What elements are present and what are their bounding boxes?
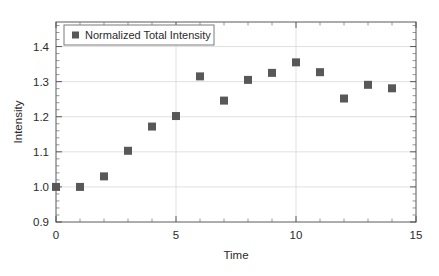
data-point-marker: [340, 94, 348, 102]
data-point-marker: [148, 123, 156, 131]
chart-legend: Normalized Total Intensity: [64, 25, 214, 45]
y-tick-label: 1.2: [33, 111, 49, 123]
x-tick-labels: 051015: [53, 229, 423, 241]
y-tick-label: 1.0: [33, 181, 49, 193]
y-tick-label: 1.1: [33, 146, 49, 158]
legend-square-marker-icon: [72, 32, 79, 39]
data-point-marker: [220, 97, 228, 105]
x-axis-title: Time: [223, 249, 248, 261]
y-tick-labels: 0.91.01.11.21.31.4: [33, 41, 50, 228]
scatter-chart: 0.91.01.11.21.31.4 051015 Time Intensity…: [0, 0, 439, 276]
data-point-marker: [100, 172, 108, 180]
legend-label: Normalized Total Intensity: [85, 29, 211, 41]
y-tick-label: 1.3: [33, 76, 49, 88]
y-tick-label: 0.9: [33, 216, 49, 228]
data-point-marker: [76, 183, 84, 191]
data-point-marker: [172, 112, 180, 120]
y-tick-label: 1.4: [33, 41, 50, 53]
x-tick-label: 10: [290, 229, 303, 241]
x-tick-label: 5: [173, 229, 179, 241]
data-point-marker: [52, 183, 60, 191]
chart-canvas: 0.91.01.11.21.31.4 051015 Time Intensity…: [0, 0, 439, 276]
data-point-marker: [364, 81, 372, 89]
x-tick-label: 0: [53, 229, 59, 241]
plot-background: [56, 22, 416, 222]
data-point-marker: [316, 68, 324, 76]
data-point-marker: [196, 72, 204, 80]
data-point-marker: [244, 76, 252, 84]
data-point-marker: [388, 84, 396, 92]
data-point-marker: [124, 147, 132, 155]
data-point-marker: [268, 69, 276, 77]
y-axis-title: Intensity: [12, 100, 24, 143]
x-tick-label: 15: [410, 229, 423, 241]
data-point-marker: [292, 58, 300, 66]
